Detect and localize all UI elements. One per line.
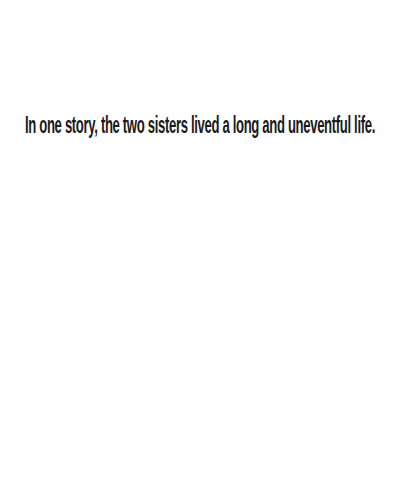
story-caption: In one story, the two sisters lived a lo… bbox=[25, 111, 375, 139]
story-page: In one story, the two sisters lived a lo… bbox=[0, 0, 407, 487]
